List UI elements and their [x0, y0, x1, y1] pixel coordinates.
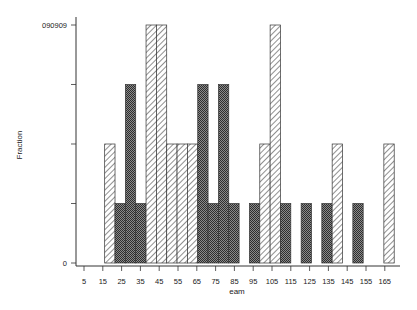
histogram-bar	[270, 25, 280, 263]
x-tick-label: 125	[303, 277, 316, 286]
histogram-bar	[105, 144, 115, 263]
histogram-bar	[301, 204, 311, 264]
histogram-bar	[384, 144, 394, 263]
y-tick-label: 090909	[42, 21, 67, 30]
x-tick-label: 145	[341, 277, 354, 286]
histogram-bar	[177, 144, 187, 263]
x-tick-label: 25	[117, 277, 125, 286]
x-tick-label: 65	[193, 277, 201, 286]
y-axis-title: Fraction	[15, 131, 24, 160]
histogram-bar	[208, 204, 218, 264]
x-tick-label: 165	[379, 277, 392, 286]
histogram-bar	[146, 25, 156, 263]
histogram-bar	[167, 144, 177, 263]
histogram-bar	[115, 204, 125, 264]
histogram-bar	[136, 204, 146, 264]
bars-group	[105, 25, 395, 263]
histogram-chart: 0090909 51525354555657585951051151251351…	[0, 0, 417, 310]
histogram-bar	[229, 204, 239, 264]
x-tick-label: 75	[211, 277, 219, 286]
x-axis-title: eam	[229, 287, 245, 296]
x-tick-label: 155	[360, 277, 373, 286]
histogram-bar	[218, 85, 228, 264]
histogram-bar	[353, 204, 363, 264]
x-tick-label: 115	[285, 277, 297, 286]
x-tick-label: 35	[136, 277, 144, 286]
x-tick-label: 55	[174, 277, 182, 286]
x-tick-label: 105	[266, 277, 279, 286]
histogram-bar	[280, 204, 290, 264]
y-tick-label: 0	[63, 259, 67, 268]
x-tick-label: 95	[249, 277, 257, 286]
histogram-bar	[332, 144, 342, 263]
x-tick-label: 135	[322, 277, 335, 286]
x-tick-label: 45	[155, 277, 163, 286]
x-tick-label: 5	[82, 277, 86, 286]
histogram-bar	[260, 144, 270, 263]
histogram-bar	[156, 25, 166, 263]
x-tick-label: 15	[99, 277, 107, 286]
histogram-bar	[249, 204, 259, 264]
y-axis-ticks: 0090909	[42, 21, 76, 268]
histogram-bar	[125, 85, 135, 264]
histogram-bar	[187, 144, 197, 263]
histogram-bar	[198, 85, 208, 264]
histogram-bar	[322, 204, 332, 264]
x-tick-label: 85	[230, 277, 238, 286]
x-axis-ticks: 5152535455565758595105115125135145155165	[82, 266, 391, 286]
